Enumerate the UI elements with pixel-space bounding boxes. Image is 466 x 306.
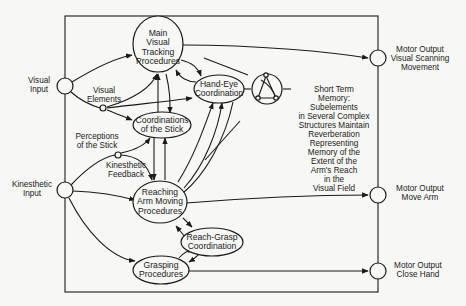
visual-elements-junction (100, 105, 106, 111)
kinesthetic-feedback-label: KinestheticFeedback (106, 161, 146, 179)
memory-structure-icon (252, 73, 282, 104)
visual-scanning-output-label: Motor OutputVisual ScanningMovement (391, 45, 450, 72)
perceptions-of-stick-label: Perceptionsof the Stick (75, 132, 118, 150)
move-arm-output-label: Motor OutputMove Arm (396, 184, 445, 202)
kinesthetic-input-node (57, 182, 73, 198)
grasping-label: GraspingProcedures (139, 260, 183, 279)
visual-input-label: VisualInput (28, 76, 50, 94)
coordinations-of-stick-label: Coordinationsof the Stick (135, 115, 188, 134)
output-close-hand-node (370, 263, 386, 279)
reach-grasp-label: Reach-GraspCoordination (186, 232, 237, 251)
text-layer: VisualInput KinestheticInput Motor Outpu… (12, 28, 450, 279)
close-hand-output-label: Motor OutputClose Hand (394, 261, 443, 279)
output-move-arm-node (370, 187, 386, 203)
hand-eye-label: Hand-EyeCoordination (195, 79, 244, 98)
visual-input-node (57, 78, 73, 94)
kinesthetic-input-label: KinestheticInput (12, 180, 52, 198)
diagram-canvas: VisualInput KinestheticInput Motor Outpu… (0, 0, 466, 306)
output-visual-scanning-node (370, 50, 386, 66)
kinesthetic-feedback-junction (115, 152, 121, 158)
reaching-arm-label: ReachingArm MovingProcedures (137, 187, 183, 216)
short-term-memory-label: Short TermMemory:Subelementsin Several C… (299, 85, 370, 193)
visual-elements-label: VisualElements (87, 86, 121, 104)
